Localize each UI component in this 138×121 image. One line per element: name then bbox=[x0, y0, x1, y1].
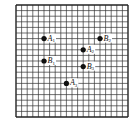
point-dot bbox=[64, 81, 69, 86]
grid-lines bbox=[16, 5, 128, 117]
point-b3: B3 bbox=[81, 62, 96, 72]
point-dot bbox=[41, 58, 46, 63]
point-dot bbox=[81, 47, 86, 52]
point-a2: A2 bbox=[81, 45, 96, 55]
point-b1: B1 bbox=[41, 56, 56, 66]
grid-diagram: A1B2A2B1B3A3 bbox=[0, 0, 138, 121]
point-dot bbox=[97, 36, 102, 41]
point-dot bbox=[81, 64, 86, 69]
point-a3: A3 bbox=[64, 78, 79, 88]
point-a1: A1 bbox=[41, 34, 56, 44]
point-b2: B2 bbox=[97, 34, 112, 44]
point-dot bbox=[41, 36, 46, 41]
